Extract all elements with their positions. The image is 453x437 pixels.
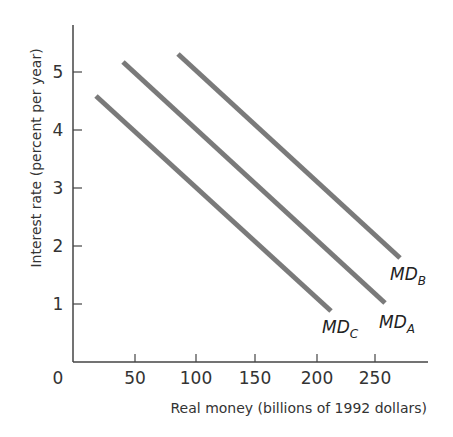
x-axis-title: Real money (billions of 1992 dollars)	[171, 400, 428, 416]
md-a-curve	[123, 62, 385, 303]
x-ticks	[135, 354, 375, 362]
y-tick-label: 4	[53, 120, 64, 140]
y-tick-label: 5	[53, 62, 64, 82]
x-tick-label: 250	[359, 368, 391, 388]
origin-label: 0	[53, 368, 64, 388]
md-c-curve	[96, 96, 331, 311]
y-tick-label: 2	[53, 236, 64, 256]
md-b-label: MDB	[390, 264, 426, 288]
md-c-label: MDC	[322, 317, 359, 341]
y-tick-label: 1	[53, 294, 64, 314]
y-ticks	[73, 72, 82, 304]
y-tick-label: 3	[53, 178, 64, 198]
money-demand-chart: 1 2 3 4 5 0 50 100 150 200 250 Real mone…	[0, 0, 453, 437]
x-tick-label: 200	[301, 368, 333, 388]
x-tick-label: 100	[180, 368, 212, 388]
x-tick-label: 150	[239, 368, 271, 388]
md-a-label: MDA	[379, 312, 415, 336]
x-tick-label: 50	[124, 368, 146, 388]
y-axis-title: Interest rate (percent per year)	[28, 48, 44, 267]
md-b-curve	[178, 54, 400, 258]
